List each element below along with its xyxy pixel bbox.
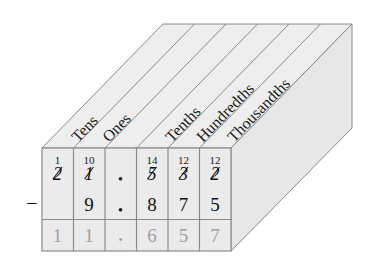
subtrahend-hundredths: 7 (179, 194, 189, 215)
minuend-decimal-point: • (118, 172, 123, 187)
result-tens: 1 (53, 225, 63, 246)
minuend-tenths: 5 (148, 164, 157, 184)
subtrahend-decimal-point: • (118, 203, 123, 218)
subtrahend-ones: 9 (84, 194, 94, 215)
result-tenths: 6 (147, 225, 157, 246)
subtrahend-thousandths: 5 (210, 194, 220, 215)
result-hundredths: 5 (179, 225, 189, 246)
subtrahend-tenths: 8 (147, 194, 157, 215)
minuend-ones: 1 (85, 164, 94, 184)
result-thousandths: 7 (210, 225, 220, 246)
result-decimal-point: • (118, 233, 122, 247)
minus-operator: − (26, 192, 37, 214)
minuend-thousandths: 2 (211, 164, 220, 184)
place-value-diagram: Tens Ones Tenths Hundredths Thousandths … (0, 0, 373, 268)
minuend-tens: 2 (53, 164, 62, 184)
result-ones: 1 (84, 225, 94, 246)
